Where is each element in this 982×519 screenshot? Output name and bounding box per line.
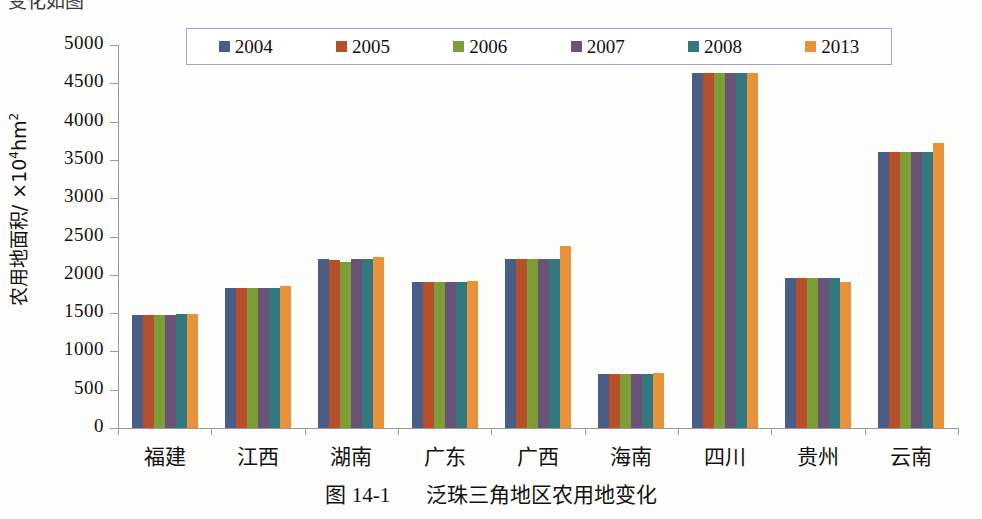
y-axis-title: 农用地面积/ ×104hm2 (4, 45, 31, 375)
bar-海南-2007 (631, 374, 642, 428)
bar-group-四川 (692, 45, 758, 428)
y-axis-tick-label: 1500 (30, 300, 104, 322)
bar-江西-2005 (236, 288, 247, 428)
bar-江西-2006 (247, 288, 258, 428)
bar-广西-2005 (516, 259, 527, 428)
scan-top-cut-text: 变化如图 (0, 0, 982, 14)
bar-湖南-2005 (329, 260, 340, 428)
bar-广东-2013 (467, 281, 478, 428)
bar-云南-2008 (922, 152, 933, 428)
bar-海南-2008 (642, 374, 653, 428)
bar-group-广东 (412, 45, 478, 428)
y-axis-tick (110, 390, 118, 391)
bar-group-海南 (598, 45, 664, 428)
bar-广西-2006 (527, 259, 538, 428)
x-axis-tick (305, 428, 306, 435)
y-axis-tick (110, 45, 118, 46)
x-axis-tick (211, 428, 212, 435)
bar-云南-2013 (933, 143, 944, 428)
x-axis-tick (585, 428, 586, 435)
bar-海南-2004 (598, 374, 609, 428)
bar-贵州-2006 (807, 278, 818, 428)
bar-广东-2004 (412, 282, 423, 428)
bar-贵州-2008 (829, 278, 840, 428)
x-axis-line (118, 428, 959, 429)
y-axis-tick-label: 4500 (30, 70, 104, 92)
x-axis-label-广西: 广西 (491, 440, 584, 470)
bar-groups (118, 45, 958, 428)
bar-江西-2007 (258, 288, 269, 428)
bar-福建-2007 (165, 315, 176, 428)
bar-四川-2008 (736, 73, 747, 428)
y-axis-tick (110, 428, 118, 429)
bar-云南-2004 (878, 152, 889, 428)
x-axis-tick (118, 428, 119, 435)
y-axis-tick-label: 4000 (30, 109, 104, 131)
y-axis-tick (110, 351, 118, 352)
x-axis-label-海南: 海南 (585, 440, 678, 470)
bar-group-江西 (225, 45, 291, 428)
bar-贵州-2004 (785, 278, 796, 428)
bar-四川-2005 (703, 73, 714, 428)
x-axis-label-江西: 江西 (211, 440, 304, 470)
x-axis-tick (771, 428, 772, 435)
bar-江西-2008 (269, 288, 280, 428)
bar-group-广西 (505, 45, 571, 428)
bar-湖南-2006 (340, 262, 351, 428)
x-axis-tick (678, 428, 679, 435)
bar-湖南-2007 (351, 259, 362, 428)
x-axis-label-广东: 广东 (398, 440, 491, 470)
x-axis-label-四川: 四川 (678, 440, 771, 470)
bar-海南-2006 (620, 374, 631, 428)
bar-广东-2008 (456, 282, 467, 428)
bar-海南-2013 (653, 373, 664, 428)
bar-福建-2004 (132, 315, 143, 428)
y-axis-tick-label: 3000 (30, 185, 104, 207)
bar-四川-2013 (747, 73, 758, 428)
y-axis-tick-label: 3500 (30, 147, 104, 169)
bar-福建-2008 (176, 314, 187, 428)
y-axis-tick (110, 160, 118, 161)
x-axis-tick (865, 428, 866, 435)
y-axis-tick (110, 275, 118, 276)
bar-贵州-2013 (840, 282, 851, 428)
bar-湖南-2008 (362, 259, 373, 428)
bar-江西-2004 (225, 288, 236, 428)
bar-云南-2007 (911, 152, 922, 428)
y-axis-tick (110, 198, 118, 199)
x-axis-tick (958, 428, 959, 435)
bar-云南-2006 (900, 152, 911, 428)
bar-广西-2008 (549, 259, 560, 428)
y-axis-tick (110, 83, 118, 84)
bar-云南-2005 (889, 152, 900, 428)
bar-group-贵州 (785, 45, 851, 428)
figure-container: 农用地面积/ ×104hm2 5000450040003500300025002… (0, 16, 982, 519)
y-axis-tick-label: 1000 (30, 338, 104, 360)
x-axis-label-云南: 云南 (865, 440, 958, 470)
bar-湖南-2013 (373, 257, 384, 428)
caption-title: 泛珠三角地区农用地变化 (426, 483, 657, 507)
y-axis-tick (110, 122, 118, 123)
x-axis-label-湖南: 湖南 (305, 440, 398, 470)
y-axis-tick-label: 5000 (30, 32, 104, 54)
x-axis-label-福建: 福建 (118, 440, 211, 470)
cut-text-fragment: 变化如图 (8, 0, 84, 13)
bar-四川-2004 (692, 73, 703, 428)
bar-广东-2007 (445, 282, 456, 428)
bar-四川-2007 (725, 73, 736, 428)
y-axis-tick (110, 313, 118, 314)
bar-贵州-2005 (796, 278, 807, 428)
y-axis-tick-label: 0 (30, 415, 104, 437)
bar-四川-2006 (714, 73, 725, 428)
bar-广西-2004 (505, 259, 516, 428)
bar-广西-2007 (538, 259, 549, 428)
x-axis-tick (398, 428, 399, 435)
bar-湖南-2004 (318, 259, 329, 428)
bar-福建-2013 (187, 314, 198, 428)
figure-caption: 图 14-1 泛珠三角地区农用地变化 (0, 478, 982, 508)
caption-number: 图 14-1 (325, 483, 390, 507)
y-axis-tick-label: 2500 (30, 224, 104, 246)
bar-group-福建 (132, 45, 198, 428)
bar-广东-2005 (423, 282, 434, 428)
y-axis-tick-label: 500 (30, 377, 104, 399)
